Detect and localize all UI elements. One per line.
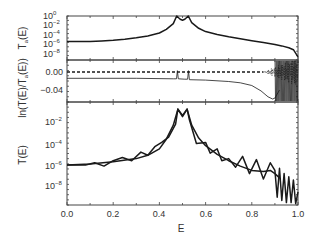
top-ytick-4: 10−8 bbox=[43, 48, 61, 59]
data-curves bbox=[67, 16, 298, 204]
figure: 100 10−2 10−4 10−6 10−8 0.00 −0.04 10−2 … bbox=[0, 0, 322, 237]
x-axis-title: E bbox=[178, 223, 185, 234]
panel-frames bbox=[67, 16, 298, 205]
bottom-ytick-1: 10−4 bbox=[45, 139, 63, 150]
top-yticks: 100 10−2 10−4 10−6 10−8 bbox=[43, 10, 61, 59]
top-panel-frame bbox=[67, 16, 298, 60]
xtick-5: 1.0 bbox=[292, 209, 305, 219]
bottom-panel-frame bbox=[67, 102, 298, 205]
bottom-ytick-2: 10−6 bbox=[45, 160, 63, 171]
bottom-ytick-0: 10−2 bbox=[45, 116, 63, 127]
middle-series-1 bbox=[67, 71, 280, 99]
mid-ytick-1: −0.04 bbox=[40, 85, 63, 95]
middle-y-axis-title: ln(T(E)/Ta(E)) bbox=[17, 58, 29, 117]
middle-oscillation-solid bbox=[275, 61, 298, 101]
mid-ytick-0: 0.00 bbox=[45, 67, 63, 77]
x-ticks-labels: 0.0 0.2 0.4 0.6 0.8 1.0 bbox=[61, 209, 305, 219]
xtick-3: 0.6 bbox=[200, 209, 213, 219]
top-y-axis-title: Ta(E) bbox=[17, 27, 29, 50]
xtick-2: 0.4 bbox=[153, 209, 166, 219]
xtick-0: 0.0 bbox=[61, 209, 74, 219]
top-series-0 bbox=[67, 16, 298, 57]
bottom-series-1 bbox=[67, 109, 298, 204]
bottom-ytick-3: 10−8 bbox=[45, 180, 63, 191]
axis-ticks bbox=[67, 16, 298, 205]
middle-panel-frame bbox=[67, 60, 298, 102]
middle-yticks: 0.00 −0.04 bbox=[40, 67, 63, 95]
bottom-yticks: 10−2 10−4 10−6 10−8 bbox=[45, 116, 63, 191]
xtick-1: 0.2 bbox=[107, 209, 120, 219]
xtick-4: 0.8 bbox=[246, 209, 259, 219]
bottom-y-axis-title: T(E) bbox=[17, 145, 28, 164]
